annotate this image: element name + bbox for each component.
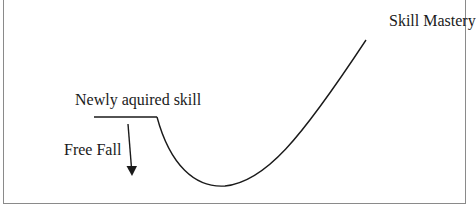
skill-mastery-label: Skill Mastery (389, 13, 476, 29)
free-fall-label: Free Fall (64, 142, 121, 158)
skill-curve (157, 40, 366, 186)
free-fall-arrow-icon (127, 124, 138, 176)
newly-acquired-skill-label: Newly aquired skill (75, 92, 201, 108)
